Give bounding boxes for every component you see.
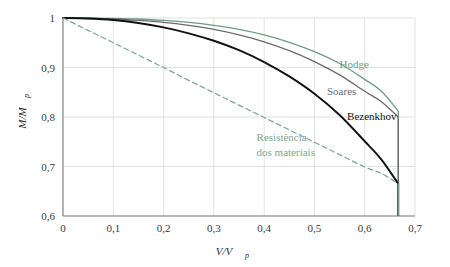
x-tick-label: 0,3 xyxy=(207,222,221,234)
annotation-dosmateriais: dos materiais xyxy=(257,146,315,158)
y-tick-label: 0,6 xyxy=(41,210,55,222)
annotation-hodge: Hodge xyxy=(340,58,369,70)
y-tick-label: 0,8 xyxy=(41,111,55,123)
x-tick-label: 0,1 xyxy=(106,222,120,234)
x-tick-label: 0 xyxy=(60,222,66,234)
annotation-soares: Soares xyxy=(327,85,356,97)
x-axis-title-subscript: p xyxy=(244,251,249,260)
interaction-curve-chart: 00,10,20,30,40,50,60,7 0,60,70,80,91 Hod… xyxy=(0,0,450,267)
x-axis-title-main: V/V xyxy=(216,245,234,257)
x-tick-label: 0,2 xyxy=(157,222,171,234)
annotation-resistncia: Resistência xyxy=(257,131,307,143)
y-axis-title-main: M/M xyxy=(16,106,28,129)
chart-figure: 00,10,20,30,40,50,60,7 0,60,70,80,91 Hod… xyxy=(0,0,450,267)
annotation-bezenkhov: Bezenkhov xyxy=(347,110,397,122)
x-tick-label: 0,7 xyxy=(408,222,422,234)
x-tick-label: 0,6 xyxy=(358,222,372,234)
y-tick-label: 0,7 xyxy=(41,161,55,173)
y-tick-label: 1 xyxy=(50,12,56,24)
y-axis-title-subscript: p xyxy=(22,94,31,99)
y-tick-label: 0,9 xyxy=(41,62,55,74)
chart-background xyxy=(0,0,450,267)
x-tick-label: 0,4 xyxy=(257,222,271,234)
x-tick-label: 0,5 xyxy=(308,222,322,234)
